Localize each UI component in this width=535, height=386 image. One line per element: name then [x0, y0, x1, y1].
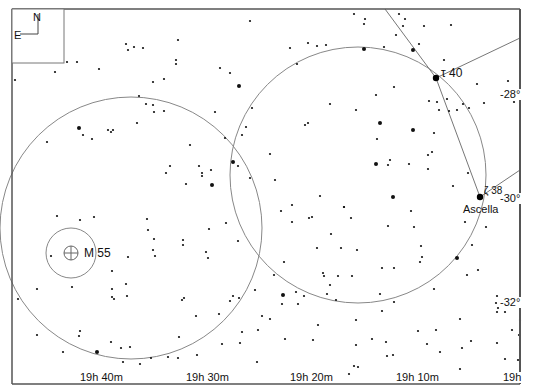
compass-north-label: N	[33, 12, 41, 23]
star	[125, 43, 127, 45]
star	[363, 23, 365, 25]
star	[459, 368, 461, 370]
star	[195, 315, 197, 317]
star	[427, 168, 429, 170]
star	[201, 172, 203, 174]
dec-label-minus-30: -30°	[499, 193, 521, 204]
star	[273, 274, 275, 276]
star	[337, 275, 339, 277]
star	[387, 225, 389, 227]
star	[127, 256, 129, 258]
star	[241, 134, 243, 136]
field-circle-left	[0, 97, 262, 359]
star	[413, 226, 415, 228]
star	[201, 175, 203, 177]
star	[133, 46, 135, 48]
star	[392, 354, 394, 356]
star	[152, 81, 154, 83]
star	[122, 361, 124, 363]
star	[125, 283, 127, 285]
star	[511, 329, 513, 331]
star	[435, 329, 437, 331]
star	[138, 95, 140, 97]
star	[485, 226, 487, 228]
star	[433, 288, 435, 290]
star	[111, 270, 113, 272]
star	[163, 78, 165, 80]
star	[307, 42, 309, 44]
star	[467, 172, 469, 174]
star	[504, 358, 506, 360]
star	[426, 343, 428, 345]
star	[355, 109, 357, 111]
star	[36, 334, 38, 336]
star	[152, 104, 154, 106]
star	[261, 315, 263, 317]
star	[225, 222, 227, 224]
star	[198, 165, 200, 167]
star	[237, 165, 239, 167]
ra-label-19h40m: 19h 40m	[79, 372, 124, 383]
star	[411, 48, 415, 52]
star	[284, 338, 286, 340]
star	[464, 221, 466, 223]
star	[79, 330, 81, 332]
star	[291, 204, 293, 206]
star	[269, 318, 271, 320]
star	[446, 98, 448, 100]
star	[182, 244, 184, 246]
star	[196, 354, 198, 356]
star	[214, 111, 216, 113]
star	[461, 347, 463, 349]
star	[393, 86, 395, 88]
star	[330, 233, 332, 235]
star	[142, 47, 144, 49]
star	[383, 46, 385, 48]
star	[163, 110, 165, 112]
star	[146, 218, 148, 220]
star	[483, 102, 485, 104]
star	[351, 275, 353, 277]
star	[229, 300, 231, 302]
star	[391, 195, 395, 199]
star	[371, 338, 373, 340]
star	[325, 44, 327, 46]
m55-label: M 55	[84, 247, 111, 259]
bright-star-icon	[477, 194, 483, 200]
star	[323, 275, 325, 277]
star	[356, 249, 358, 251]
star	[386, 355, 388, 357]
zeta-38-label: ζ 38	[484, 186, 502, 196]
star	[113, 298, 115, 300]
star	[303, 295, 305, 297]
star	[404, 18, 406, 20]
star	[329, 284, 331, 286]
constellation-lines	[385, 9, 520, 197]
star	[335, 299, 337, 301]
star	[239, 342, 241, 344]
star	[77, 126, 81, 130]
star	[153, 238, 155, 240]
star	[219, 67, 221, 69]
star	[316, 45, 318, 47]
star	[145, 103, 147, 105]
field-circle-right	[230, 47, 486, 303]
star	[185, 183, 187, 185]
star	[410, 210, 412, 212]
star	[319, 195, 321, 197]
star	[112, 129, 114, 131]
star	[385, 341, 387, 343]
star	[322, 272, 324, 274]
star	[355, 319, 357, 321]
star	[311, 216, 313, 218]
star	[127, 49, 129, 51]
star	[78, 335, 80, 337]
star	[471, 244, 473, 246]
ra-label-19h20m: 19h 20m	[289, 372, 334, 383]
star	[178, 336, 180, 338]
star	[46, 141, 48, 143]
star	[91, 138, 93, 140]
star	[317, 324, 319, 326]
star	[408, 163, 410, 165]
star	[428, 100, 430, 102]
